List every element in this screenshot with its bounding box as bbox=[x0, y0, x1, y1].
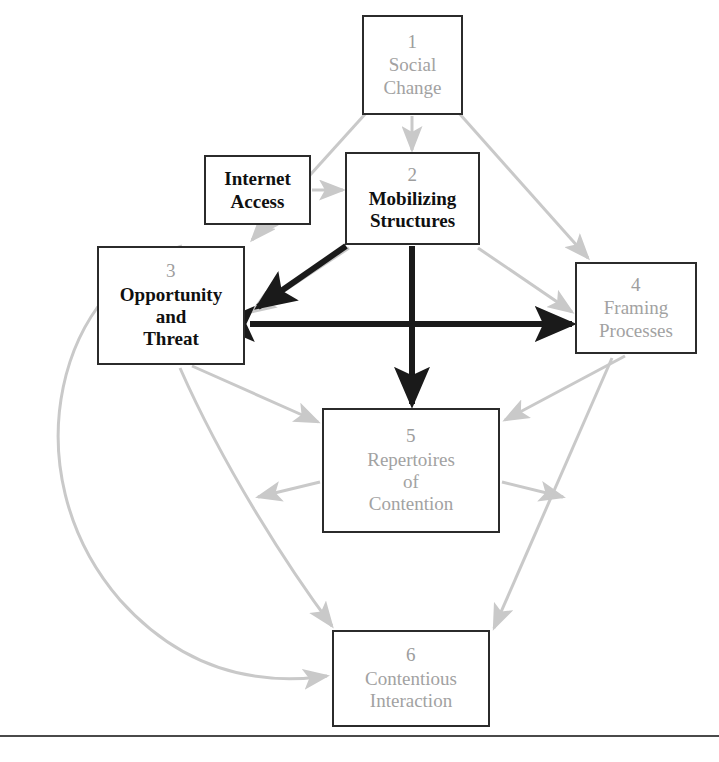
node-box-opportunity-and-threat[interactable]: 3 Opportunity and Threat bbox=[97, 246, 245, 365]
edge-5-to-3 bbox=[258, 482, 320, 497]
node-number-3: 3 bbox=[166, 260, 176, 282]
node-label-repertoires-of-contention: Repertoires of Contention bbox=[367, 449, 455, 516]
node-box-contentious-interaction[interactable]: 6 Contentious Interaction bbox=[332, 630, 490, 727]
edge-2-to-4-light bbox=[478, 248, 572, 312]
node-number-6: 6 bbox=[406, 644, 416, 666]
node-number-2: 2 bbox=[408, 164, 418, 186]
node-number-1: 1 bbox=[408, 31, 418, 53]
node-label-social-change: Social Change bbox=[383, 54, 441, 99]
edge-4-to-6 bbox=[494, 358, 612, 628]
edge-3-to-5 bbox=[192, 366, 318, 422]
edge-2-to-3-heavy bbox=[258, 246, 346, 307]
node-box-mobilizing-structures[interactable]: 2 Mobilizing Structures bbox=[345, 152, 480, 245]
node-number-5: 5 bbox=[406, 425, 416, 447]
node-label-internet-access: Internet Access bbox=[224, 168, 290, 213]
node-box-repertoires-of-contention[interactable]: 5 Repertoires of Contention bbox=[322, 408, 500, 533]
horizontal-rule bbox=[0, 735, 719, 737]
node-label-contentious-interaction: Contentious Interaction bbox=[365, 668, 457, 713]
node-label-framing-processes: Framing Processes bbox=[599, 297, 673, 342]
node-box-internet-access[interactable]: Internet Access bbox=[204, 155, 311, 225]
node-number-4: 4 bbox=[631, 274, 641, 296]
node-box-social-change[interactable]: 1 Social Change bbox=[362, 15, 463, 115]
diagram-canvas: 1 Social Change 2 Mobilizing Structures … bbox=[0, 0, 719, 762]
node-label-opportunity-and-threat: Opportunity and Threat bbox=[120, 284, 222, 351]
node-label-mobilizing-structures: Mobilizing Structures bbox=[369, 188, 457, 233]
edge-4-to-5 bbox=[505, 356, 625, 420]
node-box-framing-processes[interactable]: 4 Framing Processes bbox=[575, 262, 697, 354]
edge-3-to-6-diagonal bbox=[180, 368, 332, 626]
